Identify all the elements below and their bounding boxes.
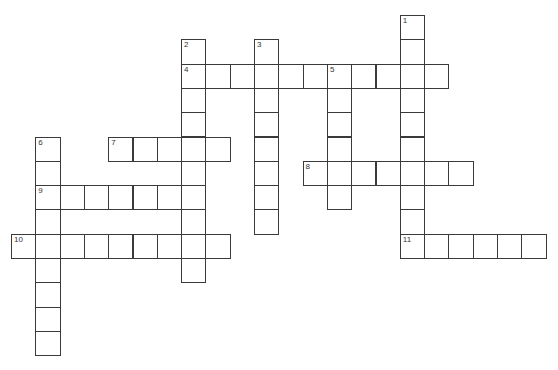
crossword-cell[interactable] [327,137,352,162]
crossword-cell[interactable] [254,185,279,210]
crossword-cell[interactable] [181,112,206,137]
crossword-cell[interactable] [181,234,206,259]
crossword-cell[interactable] [327,112,352,137]
crossword-cell[interactable] [181,88,206,113]
crossword-cell[interactable] [424,234,449,259]
crossword-cell[interactable] [230,64,255,89]
clue-number: 6 [38,139,42,147]
crossword-cell[interactable] [278,64,303,89]
crossword-cell[interactable] [424,64,449,89]
crossword-cell[interactable] [351,161,376,186]
crossword-cell[interactable]: 9 [35,185,60,210]
crossword-cell[interactable] [400,88,425,113]
clue-number: 7 [111,139,115,147]
crossword-cell[interactable] [60,185,85,210]
crossword-cell[interactable] [84,185,109,210]
crossword-cell[interactable] [400,209,425,234]
crossword-cell[interactable] [254,112,279,137]
crossword-cell[interactable] [521,234,546,259]
crossword-cell[interactable] [473,234,498,259]
crossword-cell[interactable] [205,64,230,89]
crossword-cell[interactable] [181,258,206,283]
crossword-cell[interactable] [181,161,206,186]
clue-number: 1 [403,17,407,25]
crossword-cell[interactable] [400,112,425,137]
crossword-cell[interactable] [35,331,60,356]
clue-number: 9 [38,187,42,195]
crossword-cell[interactable] [84,234,109,259]
crossword-cell[interactable] [254,209,279,234]
crossword-cell[interactable] [181,209,206,234]
crossword-cell[interactable] [108,234,133,259]
crossword-grid: 1112435697810 [0,0,558,370]
clue-number: 3 [257,41,261,49]
crossword-cell[interactable] [400,137,425,162]
crossword-cell[interactable] [327,88,352,113]
crossword-cell[interactable] [35,258,60,283]
crossword-cell[interactable] [351,64,376,89]
crossword-cell[interactable] [133,234,158,259]
crossword-cell[interactable] [157,137,182,162]
crossword-cell[interactable] [327,185,352,210]
crossword-cell[interactable] [60,234,85,259]
crossword-cell[interactable] [400,39,425,64]
crossword-cell[interactable]: 8 [303,161,328,186]
crossword-cell[interactable]: 7 [108,137,133,162]
crossword-cell[interactable]: 4 [181,64,206,89]
crossword-cell[interactable] [133,185,158,210]
crossword-cell[interactable] [254,88,279,113]
crossword-cell[interactable]: 10 [11,234,36,259]
crossword-cell[interactable] [35,282,60,307]
crossword-cell[interactable] [254,161,279,186]
crossword-cell[interactable] [181,137,206,162]
clue-number: 2 [184,41,188,49]
crossword-cell[interactable] [108,185,133,210]
crossword-cell[interactable] [35,307,60,332]
crossword-cell[interactable] [35,209,60,234]
clue-number: 10 [14,236,23,244]
crossword-cell[interactable] [327,161,352,186]
crossword-cell[interactable] [424,161,449,186]
crossword-cell[interactable] [205,234,230,259]
crossword-cell[interactable] [497,234,522,259]
crossword-cell[interactable]: 2 [181,39,206,64]
crossword-cell[interactable] [303,64,328,89]
clue-number: 4 [184,66,188,74]
crossword-cell[interactable] [376,161,401,186]
crossword-cell[interactable]: 3 [254,39,279,64]
crossword-cell[interactable] [254,64,279,89]
crossword-cell[interactable] [35,161,60,186]
crossword-cell[interactable] [157,185,182,210]
crossword-cell[interactable] [157,234,182,259]
crossword-cell[interactable] [448,234,473,259]
crossword-cell[interactable] [376,64,401,89]
clue-number: 8 [306,163,310,171]
crossword-cell[interactable] [400,185,425,210]
crossword-cell[interactable]: 5 [327,64,352,89]
crossword-cell[interactable]: 1 [400,15,425,40]
crossword-cell[interactable] [205,137,230,162]
clue-number: 11 [403,236,411,244]
crossword-cell[interactable] [400,161,425,186]
crossword-cell[interactable] [448,161,473,186]
crossword-cell[interactable]: 11 [400,234,425,259]
crossword-cell[interactable] [400,64,425,89]
clue-number: 5 [330,66,334,74]
crossword-cell[interactable] [254,137,279,162]
crossword-cell[interactable] [181,185,206,210]
crossword-cell[interactable]: 6 [35,137,60,162]
crossword-cell[interactable] [133,137,158,162]
crossword-cell[interactable] [35,234,60,259]
